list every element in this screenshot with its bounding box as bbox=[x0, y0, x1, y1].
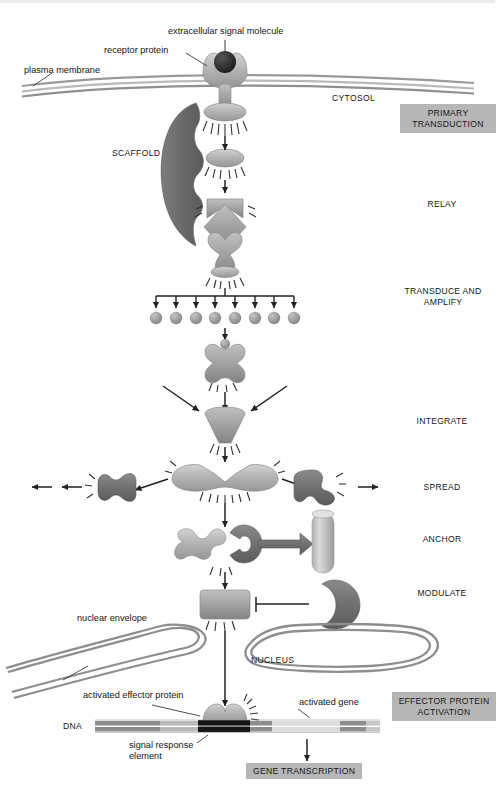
activation-burst-kinase bbox=[206, 278, 244, 289]
label-scaffold: SCAFFOLD bbox=[112, 148, 160, 158]
amplification-branch-arrows bbox=[156, 288, 294, 308]
modulated-effector-protein bbox=[200, 590, 250, 619]
stage-label-transduce-and-amplify: TRANSDUCE AND AMPLIFY bbox=[398, 286, 488, 307]
label-signal-response-element-line2: element bbox=[129, 751, 162, 762]
activation-burst-integrator bbox=[209, 383, 237, 392]
activation-burst-receptor bbox=[203, 121, 247, 136]
label-activated-effector-protein: activated effector protein bbox=[83, 690, 183, 701]
stage-label-spread: SPREAD bbox=[400, 482, 484, 493]
stage-label-modulate: MODULATE bbox=[400, 588, 484, 599]
stage-label-effector-protein-activation: EFFECTOR PROTEIN ACTIVATION bbox=[392, 692, 496, 721]
label-nuclear-envelope: nuclear envelope bbox=[77, 613, 147, 624]
signal-response-element-band bbox=[198, 720, 250, 726]
activation-burst-modulated bbox=[206, 621, 235, 631]
activation-burst-relay bbox=[205, 167, 245, 179]
anchor-assembly bbox=[175, 510, 334, 573]
leader-activated-gene bbox=[298, 709, 310, 718]
stage-label-primary-transduction: PRIMARY TRANSDUCTION bbox=[400, 104, 496, 133]
activation-burst-right-effector bbox=[336, 473, 346, 496]
label-signal-response-element-line1: signal response bbox=[129, 740, 193, 751]
label-nucleus: NUCLEUS bbox=[251, 655, 294, 665]
label-plasma-membrane: plasma membrane bbox=[24, 65, 100, 76]
label-receptor-protein: receptor protein bbox=[104, 45, 168, 56]
leader-signal-response-element bbox=[197, 735, 208, 743]
relay-protein-ellipse bbox=[206, 149, 244, 167]
spread-hub-protein bbox=[172, 465, 278, 492]
activation-burst-anchor bbox=[210, 567, 232, 576]
spread-right-effector-protein bbox=[294, 470, 334, 505]
inhibition-connector bbox=[256, 597, 309, 612]
four-lobed-integrator-protein bbox=[205, 344, 245, 382]
scaffold-protein-shape bbox=[161, 103, 203, 246]
plasma-membrane-bilayer bbox=[22, 73, 474, 97]
activated-gene-band bbox=[272, 721, 340, 725]
stage-label-anchor: ANCHOR bbox=[400, 534, 484, 545]
inhibitory-protein-shape bbox=[322, 580, 360, 629]
second-messenger-spheres bbox=[150, 312, 300, 324]
label-dna: DNA bbox=[63, 721, 82, 731]
activation-burst-left-effector bbox=[85, 474, 95, 498]
label-extracellular-signal-molecule: extracellular signal molecule bbox=[168, 26, 283, 37]
label-cytosol: CYTOSOL bbox=[332, 93, 375, 103]
integrator-wedge-protein bbox=[205, 407, 245, 443]
gene-transcription-box: GENE TRANSCRIPTION bbox=[246, 763, 362, 779]
dna-strand bbox=[95, 720, 380, 732]
nuclear-envelope-left bbox=[6, 625, 206, 698]
spread-left-effector-protein bbox=[98, 474, 136, 502]
stage-label-integrate: INTEGRATE bbox=[400, 416, 484, 427]
bound-messenger-sphere bbox=[220, 339, 230, 349]
label-activated-gene: activated gene bbox=[299, 697, 359, 708]
stage-label-relay: RELAY bbox=[400, 199, 484, 210]
